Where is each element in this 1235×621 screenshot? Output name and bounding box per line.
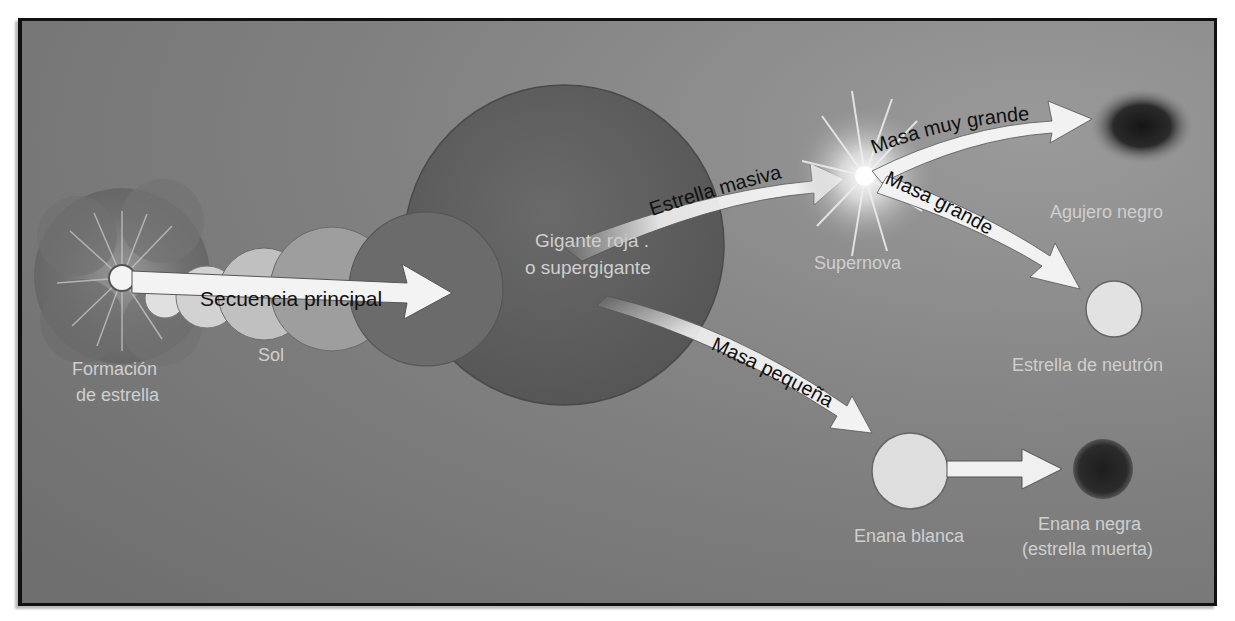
star-formation-cloud-icon (34, 179, 210, 366)
red-giant-label-1: Gigante roja . (535, 230, 649, 251)
sun-label: Sol (258, 345, 284, 365)
neutron-star-label: Estrella de neutrón (1012, 355, 1163, 375)
diagram-frame: Secuencia principal Estrella masiva Masa… (18, 18, 1217, 606)
black-dwarf-icon (1073, 439, 1133, 499)
red-giant-label-2: o supergigante (525, 257, 651, 278)
main-sequence-label: Secuencia principal (200, 287, 382, 310)
neutron-star-icon (1086, 281, 1142, 337)
supernova-label: Supernova (814, 253, 902, 273)
white-dwarf-label: Enana blanca (854, 526, 965, 546)
star-formation-label-2: de estrella (76, 385, 160, 405)
black-hole-icon (1090, 88, 1194, 164)
stellar-evolution-diagram: Secuencia principal Estrella masiva Masa… (22, 21, 1217, 606)
white-dwarf-icon (872, 433, 948, 509)
black-hole-label: Agujero negro (1050, 202, 1163, 222)
star-formation-label-1: Formación (72, 359, 157, 379)
black-dwarf-label-2: (estrella muerta) (1022, 539, 1153, 559)
black-dwarf-label-1: Enana negra (1038, 514, 1142, 534)
